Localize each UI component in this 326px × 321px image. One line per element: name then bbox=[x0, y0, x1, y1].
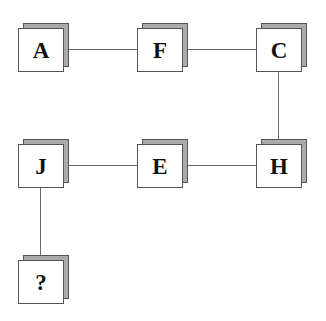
edge-j-e bbox=[68, 165, 137, 166]
node-label: A bbox=[33, 39, 50, 62]
node-e: E bbox=[137, 139, 187, 187]
node-face: C bbox=[256, 28, 302, 72]
node-face: F bbox=[137, 28, 183, 72]
node-c: C bbox=[256, 23, 306, 71]
edge-c-h bbox=[278, 71, 279, 139]
letter-sequence-diagram: A F C J E H ? bbox=[0, 0, 326, 321]
node-a: A bbox=[18, 23, 68, 71]
edge-e-h bbox=[187, 165, 256, 166]
node-face: E bbox=[137, 144, 183, 188]
node-face: A bbox=[18, 28, 64, 72]
edge-f-c bbox=[187, 49, 256, 50]
edge-a-f bbox=[68, 49, 137, 50]
node-label: F bbox=[153, 39, 167, 62]
node-face: H bbox=[256, 144, 302, 188]
edge-j-question bbox=[40, 187, 41, 255]
node-face: ? bbox=[18, 260, 64, 304]
node-f: F bbox=[137, 23, 187, 71]
node-label: C bbox=[271, 39, 288, 62]
node-label: E bbox=[152, 155, 167, 178]
node-label: J bbox=[35, 155, 47, 178]
node-j: J bbox=[18, 139, 68, 187]
node-h: H bbox=[256, 139, 306, 187]
node-label: H bbox=[270, 155, 288, 178]
question-mark-label: ? bbox=[35, 271, 47, 294]
node-face: J bbox=[18, 144, 64, 188]
node-unknown: ? bbox=[18, 255, 68, 303]
